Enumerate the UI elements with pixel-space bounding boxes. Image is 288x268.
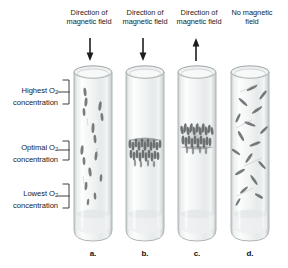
field-arrow-c — [193, 38, 200, 61]
tube-b — [126, 66, 164, 241]
field-arrow-a — [87, 38, 94, 61]
figure-canvas: Direction of magnetic field Direction of… — [0, 0, 288, 268]
tube-c — [178, 66, 216, 241]
tubes-diagram — [0, 0, 288, 268]
tube-d — [231, 66, 269, 241]
bracket-lowest-o2 — [58, 184, 69, 208]
bracket-optimal-o2 — [58, 141, 69, 160]
bracket-highest-o2 — [58, 80, 69, 104]
tube-a — [74, 66, 112, 241]
field-arrow-b — [140, 38, 147, 61]
